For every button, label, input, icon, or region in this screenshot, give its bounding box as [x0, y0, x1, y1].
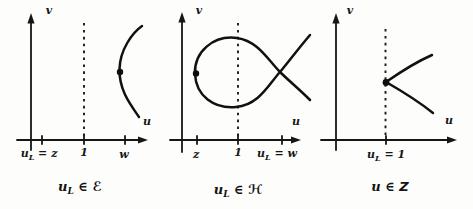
cusp-upper-branch-curve — [386, 55, 432, 82]
caption-ul-in-E: uL ∈ ℰ — [58, 179, 102, 196]
panel-hyperbolic: v u z 1 uL = w uL ∈ ℋ — [170, 4, 310, 199]
u-axis-label: u — [445, 114, 453, 127]
v-axis-label: v — [347, 4, 354, 17]
u-axis-arrow-icon — [447, 136, 457, 143]
tick-label-z: z — [192, 148, 200, 161]
u-axis-label: u — [143, 115, 151, 128]
u-axis-arrow-icon — [138, 136, 148, 143]
v-axis-label: v — [196, 4, 203, 17]
panel-elliptic: v u uL = z 1 w uL ∈ ℰ — [17, 4, 151, 196]
state-point-marker — [117, 69, 123, 75]
cusp-point-marker — [383, 79, 390, 86]
u-axis-label: u — [292, 115, 300, 128]
v-axis-arrow-icon — [332, 13, 339, 24]
figure-canvas: v u uL = z 1 w uL ∈ ℰ v u z 1 uL = w uL — [0, 0, 473, 209]
tick-label-ul-equals-w: uL = w — [257, 147, 298, 162]
u-axis-arrow-icon — [291, 136, 301, 143]
hugoniot-loop-curve — [195, 35, 310, 107]
tick-label-ul-equals-1: uL = 1 — [367, 148, 405, 163]
caption-u-in-Z: u ∈ Z — [371, 179, 409, 194]
caption-ul-in-H: uL ∈ ℋ — [214, 182, 262, 199]
state-point-marker — [193, 70, 199, 76]
tick-label-w: w — [119, 148, 129, 161]
tick-label-one: 1 — [80, 146, 88, 159]
v-axis-label: v — [46, 4, 53, 17]
cusp-lower-branch-curve — [386, 82, 433, 113]
v-axis-arrow-icon — [178, 12, 185, 23]
panel-boundary: v u uL = 1 u ∈ Z — [321, 4, 457, 194]
tick-label-one: 1 — [234, 146, 242, 159]
tick-label-ul-equals-z: uL = z — [21, 147, 59, 162]
v-axis-arrow-icon — [27, 13, 34, 24]
phase-plane-figure: v u uL = z 1 w uL ∈ ℰ v u z 1 uL = w uL — [0, 0, 473, 209]
